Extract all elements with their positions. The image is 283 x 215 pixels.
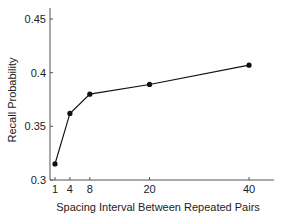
data-point xyxy=(87,92,92,97)
x-tick-label: 4 xyxy=(67,183,73,195)
data-point xyxy=(52,161,57,166)
y-axis-label: Recall Probability xyxy=(6,57,18,142)
y-tick-label: 0.3 xyxy=(31,174,46,186)
data-series xyxy=(52,63,251,167)
y-tick-label: 0.45 xyxy=(25,13,46,25)
x-tick-label: 40 xyxy=(243,183,255,195)
series-line xyxy=(55,65,249,164)
data-point xyxy=(246,63,251,68)
line-chart: 0.30.350.40.45 1482040 Recall Probabilit… xyxy=(0,0,283,215)
axes xyxy=(50,8,274,180)
x-tick-label: 1 xyxy=(52,183,58,195)
data-point xyxy=(67,111,72,116)
x-tick-label: 8 xyxy=(87,183,93,195)
data-point xyxy=(147,82,152,87)
y-tick-label: 0.35 xyxy=(25,120,46,132)
x-tick-label: 20 xyxy=(143,183,155,195)
y-axis-ticks: 0.30.350.40.45 xyxy=(25,13,53,186)
y-tick-label: 0.4 xyxy=(31,67,46,79)
x-axis-label: Spacing Interval Between Repeated Pairs xyxy=(56,201,260,213)
